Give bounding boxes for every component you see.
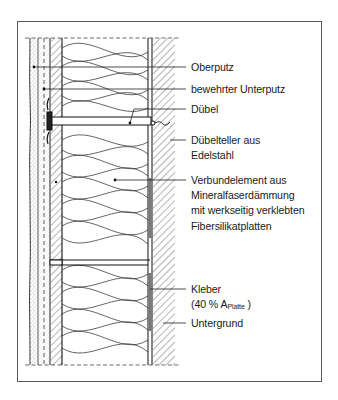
layer-unterputz <box>38 38 50 365</box>
layer-fibersilikat-outer <box>51 38 62 365</box>
layer-oberputz <box>30 38 39 365</box>
adhesive-kleber <box>149 178 152 331</box>
label-kleber: Kleber (40 % APlatte ) <box>191 282 251 314</box>
element-joint <box>50 260 150 265</box>
label-bewehrter-unterputz: bewehrter Unterputz <box>191 82 285 97</box>
label-untergrund: Untergrund <box>191 316 243 331</box>
label-verbundelement: Verbundelement aus Mineralfaserdämmung m… <box>191 173 304 234</box>
label-duebelteller: Dübelteller aus Edelstahl <box>191 133 260 163</box>
label-oberputz: Oberputz <box>191 60 234 75</box>
layer-untergrund <box>153 38 175 365</box>
label-duebel: Dübel <box>191 102 218 117</box>
layer-mineralwolle <box>62 43 148 353</box>
